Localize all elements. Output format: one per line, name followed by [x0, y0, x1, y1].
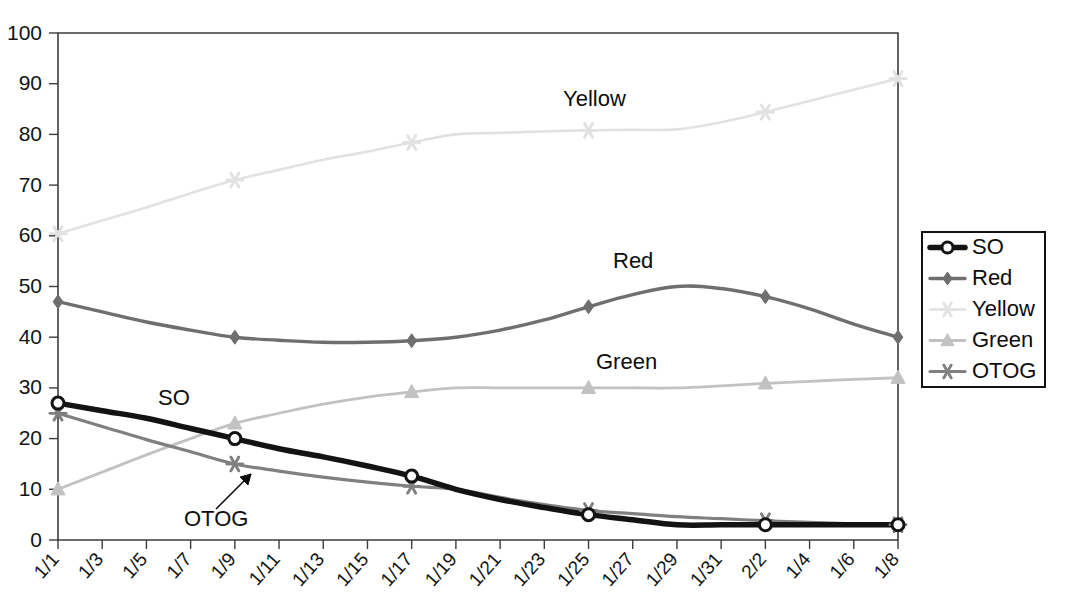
x-tick-label: 1/27 [597, 549, 637, 591]
x-tick-label: 1/13 [288, 549, 328, 591]
x-tick-label: 1/15 [332, 549, 372, 591]
data-point-marker [406, 470, 418, 482]
x-tick-label: 1/21 [465, 549, 505, 591]
y-tick-label: 20 [19, 426, 42, 449]
y-tick-label: 60 [19, 223, 42, 246]
y-tick-label: 80 [19, 122, 42, 145]
data-point-marker [230, 330, 240, 344]
data-point-marker [892, 519, 904, 531]
otog-callout-arrow [216, 474, 251, 509]
x-tick-label: 1/23 [509, 549, 549, 591]
x-tick-label: 1/11 [245, 549, 284, 589]
chart-container: 0102030405060708090100 1/11/31/51/71/91/… [0, 0, 1068, 600]
data-point-marker [893, 330, 903, 344]
x-tick-label: 1/31 [686, 549, 726, 591]
y-tick-label: 10 [19, 477, 42, 500]
series-markers [50, 72, 906, 532]
y-tick-label: 90 [19, 71, 42, 94]
data-point-marker [53, 295, 63, 309]
y-tick-label: 70 [19, 173, 42, 196]
x-tick-label: 1/5 [118, 549, 151, 583]
line-chart: 0102030405060708090100 1/11/31/51/71/91/… [0, 0, 1068, 600]
x-tick-label: 1/7 [162, 549, 195, 583]
data-point-marker [581, 123, 597, 137]
x-tick-label: 1/6 [825, 549, 858, 583]
y-axis-ticks: 0102030405060708090100 [7, 21, 58, 551]
y-tick-label: 50 [19, 274, 42, 297]
x-tick-label: 1/19 [421, 549, 461, 591]
legend-label: SO [972, 234, 1004, 259]
legend-label: Yellow [972, 296, 1035, 321]
data-point-marker [407, 334, 417, 348]
legend-label: Green [972, 327, 1033, 352]
chart-legend: SORedYellowGreenOTOG [922, 232, 1045, 387]
series-line-yellow [58, 79, 898, 234]
x-tick-label: 1/4 [781, 548, 815, 582]
x-axis-ticks: 1/11/31/51/71/91/111/131/151/171/191/211… [30, 540, 903, 590]
x-tick-label: 1/9 [207, 549, 240, 583]
data-point-marker [229, 433, 241, 445]
data-point-marker [404, 136, 420, 150]
y-tick-label: 40 [19, 325, 42, 348]
x-tick-label: 1/8 [870, 549, 903, 583]
x-tick-label: 1/17 [376, 549, 416, 591]
x-tick-label: 1/3 [74, 549, 107, 583]
x-tick-label: 1/29 [642, 549, 682, 591]
y-tick-label: 30 [19, 375, 42, 398]
data-point-marker [227, 173, 243, 187]
x-tick-label: 2/2 [737, 549, 770, 583]
y-tick-label: 100 [7, 21, 42, 44]
series-lines [58, 79, 898, 526]
label-yellow: Yellow [563, 86, 626, 111]
label-otog: OTOG [184, 506, 248, 531]
legend-label: Red [972, 265, 1012, 290]
data-point-marker [942, 242, 953, 253]
y-tick-label: 0 [30, 528, 42, 551]
legend-label: OTOG [972, 358, 1036, 383]
x-tick-label: 1/1 [30, 549, 63, 583]
plot-frame [58, 33, 898, 540]
label-so: SO [158, 385, 190, 410]
data-point-marker [760, 290, 770, 304]
data-point-marker [584, 300, 594, 314]
data-point-marker [757, 105, 773, 119]
data-point-marker [583, 509, 595, 521]
label-green: Green [596, 349, 657, 374]
data-point-marker [759, 519, 771, 531]
series-line-red [58, 286, 898, 343]
x-tick-label: 1/25 [553, 549, 593, 591]
label-red: Red [613, 248, 653, 273]
data-point-marker [227, 457, 243, 471]
data-point-marker [52, 397, 64, 409]
plot-border [58, 33, 898, 540]
